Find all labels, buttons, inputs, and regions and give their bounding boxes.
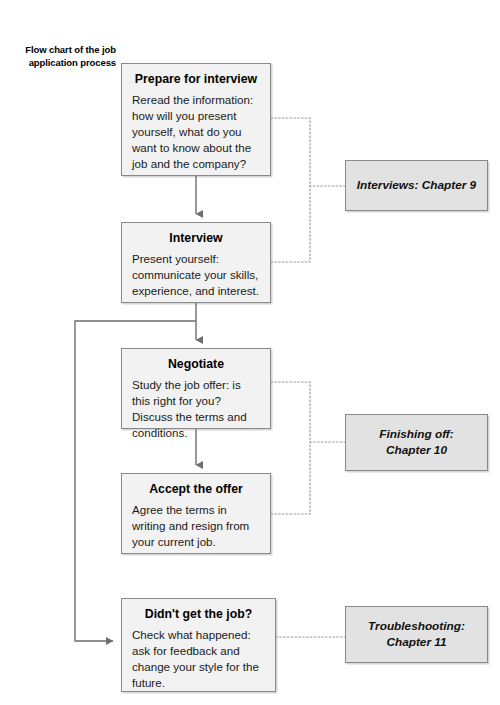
flow-node-title: Didn't get the job?: [132, 607, 265, 622]
flow-node-body: Check what happened: ask for feedback an…: [132, 627, 265, 691]
flow-node-title: Negotiate: [132, 357, 260, 372]
flow-node-title: Interview: [132, 231, 260, 246]
chapter-reference-label: Interviews: Chapter 9: [357, 178, 476, 194]
flow-node-prepare[interactable]: Prepare for interview Reread the informa…: [121, 63, 271, 176]
page-title: Flow chart of the job application proces…: [8, 44, 116, 69]
flow-node-body: Present yourself: communicate your skill…: [132, 251, 260, 299]
chapter-reference-label: Troubleshooting: Chapter 11: [368, 619, 465, 650]
connector-accept-to-chapter-10: [271, 442, 310, 514]
chapter-reference-interviews[interactable]: Interviews: Chapter 9: [345, 160, 488, 211]
connector-prepare-to-chapter-9: [271, 118, 345, 186]
flow-node-body: Agree the terms in writing and resign fr…: [132, 502, 260, 550]
flow-node-interview[interactable]: Interview Present yourself: communicate …: [121, 222, 271, 303]
flowchart-page: Flow chart of the job application proces…: [0, 0, 500, 705]
flow-node-rejected[interactable]: Didn't get the job? Check what happened:…: [121, 598, 276, 692]
connector-interview-to-chapter-9: [271, 186, 310, 262]
flow-node-body: Reread the information: how will you pre…: [132, 92, 260, 172]
flow-node-accept[interactable]: Accept the offer Agree the terms in writ…: [121, 473, 271, 554]
connector-negotiate-to-chapter-10: [271, 382, 345, 442]
chapter-reference-label: Finishing off: Chapter 10: [379, 427, 453, 458]
flow-node-body: Study the job offer: is this right for y…: [132, 377, 260, 441]
flow-node-title: Accept the offer: [132, 482, 260, 497]
flow-node-title: Prepare for interview: [132, 72, 260, 87]
chapter-reference-troubleshooting[interactable]: Troubleshooting: Chapter 11: [345, 606, 488, 663]
flow-node-negotiate[interactable]: Negotiate Study the job offer: is this r…: [121, 348, 271, 429]
chapter-reference-finishing-off[interactable]: Finishing off: Chapter 10: [345, 414, 488, 471]
